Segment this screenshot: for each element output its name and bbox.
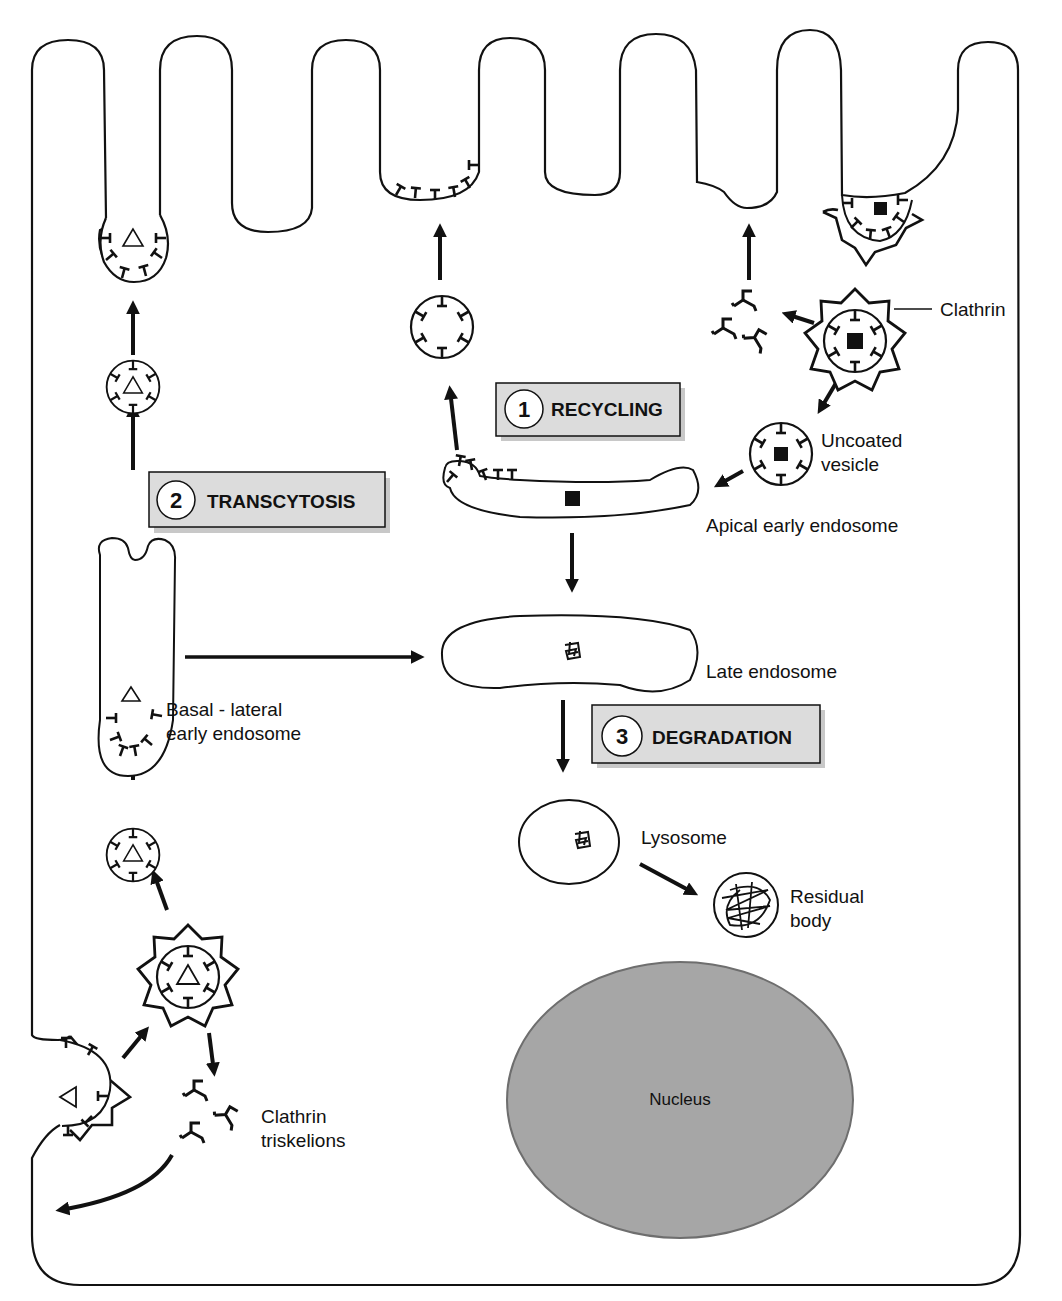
label-lysosome: Lysosome — [641, 827, 727, 848]
label-late-endosome: Late endosome — [706, 661, 837, 682]
step-box-recycling: 1 RECYCLING — [496, 383, 685, 441]
step-box-degradation: 3 DEGRADATION — [592, 705, 825, 768]
recycling-vesicle — [411, 296, 473, 358]
residual-body — [714, 873, 778, 937]
label-residual-body-2: body — [790, 910, 832, 931]
late-endosome — [442, 615, 698, 691]
step-number: 1 — [518, 397, 530, 422]
uncoated-vesicle — [750, 423, 812, 485]
triskelions-basal — [180, 1081, 241, 1143]
label-uncoated-vesicle-2: vesicle — [821, 454, 879, 475]
label-clathrin-triskelions-2: triskelions — [261, 1130, 345, 1151]
label-basal-lateral-2: early endosome — [166, 723, 301, 744]
basolateral-coated-pit — [60, 1036, 130, 1140]
label-clathrin-triskelions: Clathrin — [261, 1106, 326, 1127]
endocytosis-diagram: 1 RECYCLING 2 TRANSCYTOSIS 3 DEGRADATION… — [0, 0, 1062, 1301]
square-icon — [874, 202, 887, 215]
label-uncoated-vesicle: Uncoated — [821, 430, 902, 451]
step-label: RECYCLING — [551, 399, 663, 420]
label-apical-early-endosome: Apical early endosome — [706, 515, 898, 536]
label-nucleus: Nucleus — [649, 1090, 710, 1109]
basal-lateral-early-endosome — [99, 538, 176, 776]
label-residual-body: Residual — [790, 886, 864, 907]
label-clathrin: Clathrin — [940, 299, 1005, 320]
square-icon — [847, 333, 863, 349]
transcytosis-vesicle-upper — [107, 361, 160, 414]
lysosome — [519, 800, 619, 884]
square-icon — [565, 491, 580, 506]
transcytosis-vesicle-lower — [107, 829, 160, 882]
apical-pit-transcytosis — [100, 215, 168, 282]
step-label: DEGRADATION — [652, 727, 792, 748]
step-label: TRANSCYTOSIS — [207, 491, 356, 512]
label-basal-lateral: Basal - lateral — [166, 699, 282, 720]
triskelions-apical — [712, 291, 770, 354]
apical-early-endosome — [443, 455, 698, 517]
step-box-transcytosis: 2 TRANSCYTOSIS — [149, 472, 390, 533]
step-number: 3 — [616, 724, 628, 749]
apical-coated-pit — [823, 195, 922, 265]
step-number: 2 — [170, 488, 182, 513]
clathrin-coated-vesicle-apical — [805, 289, 905, 390]
square-icon — [774, 447, 788, 461]
apical-membrane-receptors — [392, 160, 479, 200]
clathrin-coated-vesicle-basal — [138, 925, 238, 1026]
